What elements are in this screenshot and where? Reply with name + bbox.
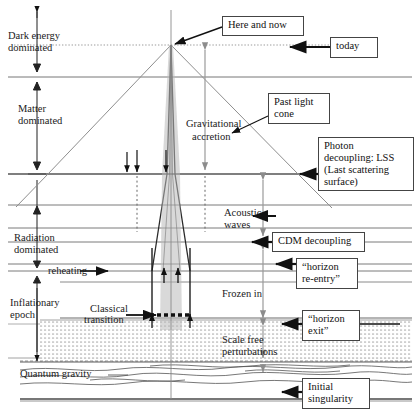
label-quantum-gravity: Quantum gravity: [20, 368, 91, 380]
callout-horizon-exit[interactable]: “horizon exit”: [302, 310, 360, 341]
callout-photon-decoupling[interactable]: Photon decoupling: LSS (Last scattering …: [318, 137, 414, 191]
diagram-vectors: [0, 0, 419, 414]
callout-past-light-cone[interactable]: Past light cone: [268, 93, 330, 124]
label-waves: waves: [224, 219, 250, 231]
callout-here-and-now[interactable]: Here and now: [222, 16, 304, 36]
callout-initial-singularity[interactable]: Initial singularity: [302, 378, 370, 409]
era-label-inflationary: Inflationaryepoch: [10, 297, 60, 320]
label-accretion: accretion: [192, 131, 230, 143]
leader-here-and-now: [175, 27, 222, 44]
label-classical: Classical: [90, 303, 128, 315]
label-frozen-in: Frozen in: [222, 288, 262, 300]
era-label-matter: Matterdominated: [18, 103, 62, 126]
callout-cdm-decoupling[interactable]: CDM decoupling: [272, 232, 365, 252]
era-label-dark-energy: Dark energydominated: [8, 30, 60, 53]
label-reheating: reheating: [48, 265, 87, 277]
label-perturbations: perturbations: [222, 346, 277, 358]
label-gravitational: Gravitational: [186, 118, 241, 130]
label-scale-free: Scale free: [222, 334, 264, 346]
callout-today[interactable]: today: [330, 37, 378, 58]
label-acoustic: Acoustic: [224, 207, 261, 219]
figure-canvas: Dark energydominated Matterdominated Rad…: [0, 0, 419, 414]
lss-inflow-arrows: [127, 150, 166, 172]
era-label-radiation: Radiationdominated: [14, 232, 58, 255]
label-transition: transition: [84, 314, 124, 326]
callout-horizon-re-entry[interactable]: “horizon re-entry”: [296, 258, 358, 289]
